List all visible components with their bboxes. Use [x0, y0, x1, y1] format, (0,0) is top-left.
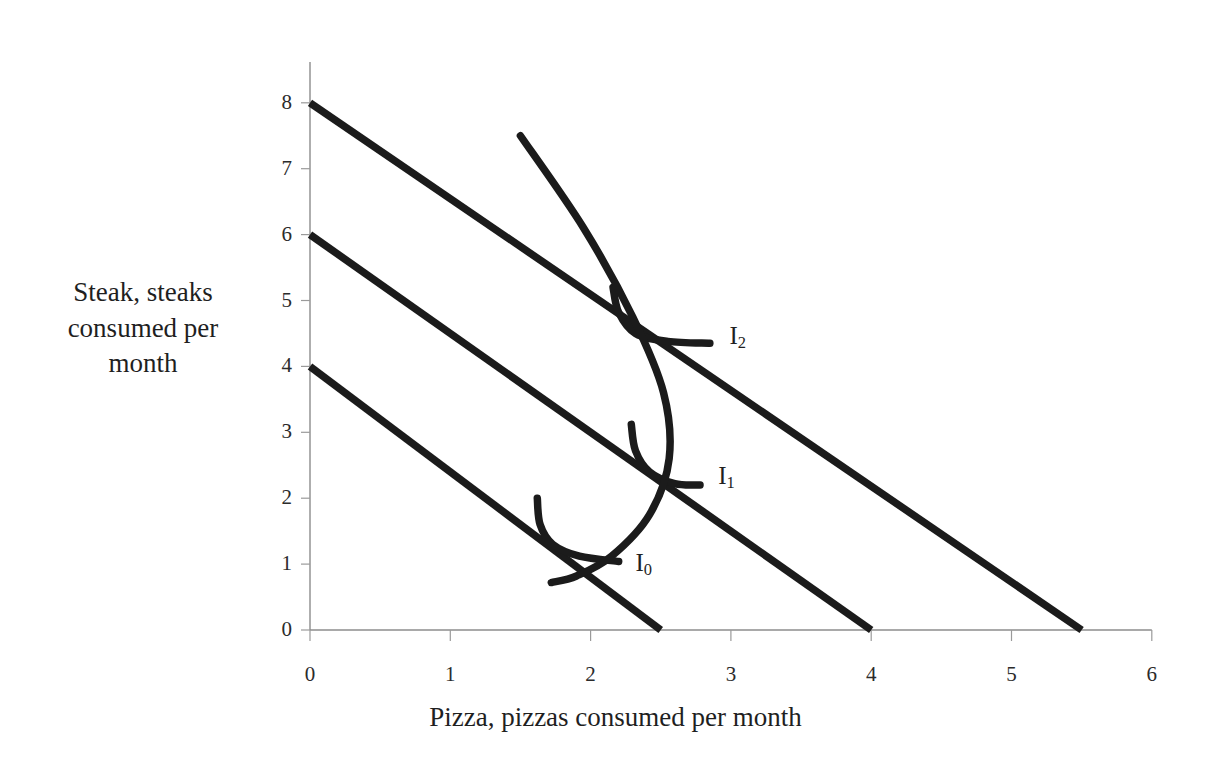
y-tick-label: 8	[258, 92, 292, 113]
curve-label-base: I	[729, 322, 737, 349]
y-axis-title: Steak, steaksconsumed permonth	[18, 275, 268, 382]
x-tick-label: 3	[711, 664, 751, 685]
y-axis-title-line: Steak, steaks	[18, 275, 268, 311]
x-tick-label: 4	[851, 664, 891, 685]
chart-plot-area	[0, 0, 1231, 778]
curve-label-base: I	[718, 462, 726, 489]
x-axis-title: Pizza, pizzas consumed per month	[0, 700, 1231, 736]
budget-line-0	[310, 366, 661, 630]
x-tick-label: 5	[992, 664, 1032, 685]
x-tick-label: 2	[571, 664, 611, 685]
x-tick-label: 6	[1132, 664, 1172, 685]
y-tick-label: 4	[258, 355, 292, 376]
indifference-curve-chart: Steak, steaksconsumed permonth Pizza, pi…	[0, 0, 1231, 778]
indifference-curves-group	[537, 287, 710, 561]
curve-label-i2: I2	[729, 323, 746, 348]
indifference-curve-i0	[537, 498, 618, 561]
y-tick-label: 7	[258, 158, 292, 179]
budget-lines-group	[310, 103, 1082, 630]
y-tick-label: 1	[258, 553, 292, 574]
curve-label-subscript: 0	[644, 560, 652, 579]
y-tick-label: 5	[258, 290, 292, 311]
y-tick-label: 0	[258, 619, 292, 640]
curve-label-subscript: 2	[738, 333, 746, 352]
y-tick-label: 3	[258, 421, 292, 442]
y-axis-title-line: month	[18, 346, 268, 382]
x-tick-label: 1	[430, 664, 470, 685]
curve-label-i1: I1	[718, 463, 735, 488]
y-axis-title-line: consumed per	[18, 311, 268, 347]
curve-label-i0: I0	[635, 550, 652, 575]
y-tick-label: 2	[258, 487, 292, 508]
x-tick-label: 0	[290, 664, 330, 685]
curve-label-base: I	[635, 549, 643, 576]
price-consumption-curve	[520, 136, 670, 583]
budget-line-2	[310, 103, 1082, 630]
curve-label-subscript: 1	[727, 473, 735, 492]
price-consumption-curve-group	[520, 136, 670, 583]
y-tick-label: 6	[258, 224, 292, 245]
